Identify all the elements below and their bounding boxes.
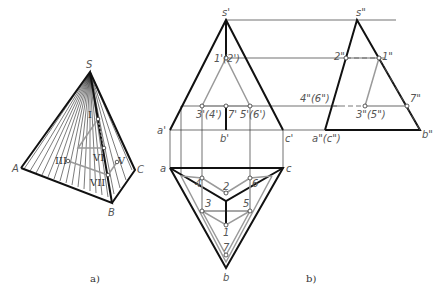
- label-6: 6: [252, 178, 258, 189]
- orthographic-views: s' 1'(2') 3'(4') 7' 5'(6') a' b' c' s" 2…: [157, 7, 433, 284]
- label-7-dblprime: 7": [410, 93, 421, 104]
- label-2-dblprime: 2": [334, 51, 345, 62]
- section-label-VI: VI: [92, 152, 104, 163]
- hatch-right-face: [90, 72, 132, 194]
- section-label-III: III: [55, 155, 67, 166]
- label-1: 1: [223, 227, 229, 238]
- section-label-V: V: [117, 155, 126, 166]
- label-b-prime: b': [220, 133, 229, 144]
- label-a-prime: a': [157, 125, 166, 136]
- label-4-6-dblprime: 4"(6"): [300, 93, 330, 104]
- label-4: 4: [195, 178, 201, 189]
- label-3-5-dblprime: 3"(5"): [356, 109, 386, 120]
- section-label-I: I: [88, 109, 92, 120]
- diagram-canvas: S A B C I III V VI VII a): [0, 0, 444, 296]
- label-7-prime: 7': [228, 109, 237, 120]
- label-s-dblprime: s": [356, 7, 366, 18]
- projection-lines: [170, 20, 420, 178]
- label-a-c-dblprime: a"(c"): [312, 133, 341, 144]
- vertex-A: A: [11, 163, 19, 174]
- label-s-prime: s': [222, 7, 230, 18]
- label-3-4-prime: 3'(4'): [196, 109, 222, 120]
- label-a: a: [160, 163, 166, 174]
- label-5-6-prime: 5'(6'): [240, 109, 266, 120]
- vertex-C: C: [137, 164, 144, 175]
- label-c-prime: c': [285, 133, 293, 144]
- label-5: 5: [243, 198, 249, 209]
- label-1-dblprime: 1": [382, 51, 393, 62]
- label-7: 7: [223, 242, 230, 253]
- caption-b: b): [306, 273, 316, 284]
- label-b: b: [223, 272, 229, 283]
- label-3: 3: [205, 198, 211, 209]
- section-label-VII: VII: [89, 177, 105, 188]
- label-2: 2: [223, 181, 229, 192]
- label-c: c: [286, 163, 292, 174]
- vertex-S: S: [86, 59, 93, 70]
- caption-a: a): [90, 273, 100, 284]
- pyramid-3d: S A B C I III V VI VII a): [11, 59, 144, 284]
- label-1-2-prime: 1'(2'): [214, 53, 240, 64]
- label-b-dblprime: b": [422, 129, 433, 140]
- vertex-B: B: [108, 207, 115, 218]
